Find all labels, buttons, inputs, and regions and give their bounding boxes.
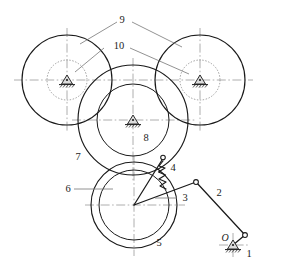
label-4: 4 xyxy=(170,162,176,173)
pin-joint-link2-ground xyxy=(243,233,248,238)
label-6: 6 xyxy=(65,183,70,194)
hub-dot-pivot-O xyxy=(232,244,234,246)
hub-dot-center-gear xyxy=(132,119,134,121)
labels-group: 9 10 7 8 6 3 4 5 2 O 1 xyxy=(65,14,251,259)
support-right-planet xyxy=(192,75,208,88)
label-9: 9 xyxy=(119,14,124,25)
label-7: 7 xyxy=(75,151,80,162)
leader-9-right xyxy=(132,22,182,47)
label-1: 1 xyxy=(246,248,251,259)
label-5: 5 xyxy=(156,237,161,248)
pin-joint-spring-top xyxy=(161,155,166,160)
support-left-planet xyxy=(59,75,75,88)
label-pivot-O: O xyxy=(221,232,228,243)
label-10: 10 xyxy=(114,40,125,51)
label-3: 3 xyxy=(182,192,187,203)
kinematic-diagram-root: 9 10 7 8 6 3 4 5 2 O 1 xyxy=(0,0,283,274)
pin-joint-link2-link3 xyxy=(194,180,199,185)
leader-9-left xyxy=(80,22,117,44)
label-2: 2 xyxy=(216,187,221,198)
hub-dot-left-planet xyxy=(66,79,68,81)
leader-10-right xyxy=(130,48,189,74)
hub-dot-right-planet xyxy=(199,79,201,81)
leader-10-left xyxy=(75,48,104,72)
label-8: 8 xyxy=(143,132,148,143)
kinematic-diagram-canvas: 9 10 7 8 6 3 4 5 2 O 1 xyxy=(0,0,283,274)
centerlines-group xyxy=(14,28,253,256)
